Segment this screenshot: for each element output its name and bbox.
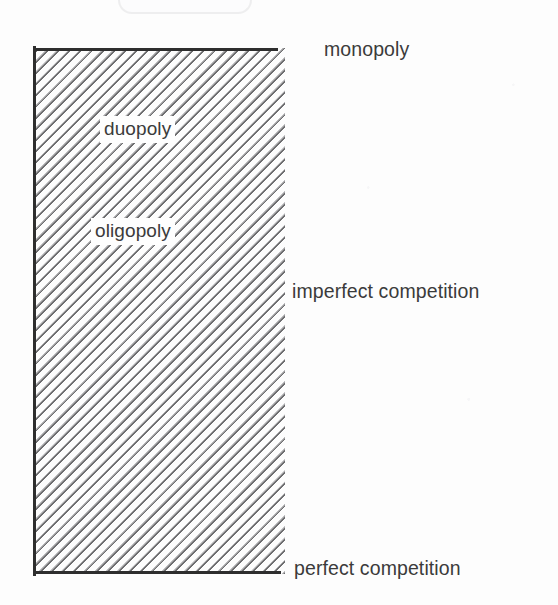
label-oligopoly: oligopoly	[91, 218, 175, 245]
scan-artifact	[118, 0, 252, 14]
bar-bottom-border	[33, 571, 281, 574]
label-imperfect-competition: imperfect competition	[292, 280, 479, 303]
diagram-canvas: duopoly oligopoly monopoly imperfect com…	[0, 0, 558, 605]
bar-left-border	[33, 46, 36, 576]
label-duopoly: duopoly	[100, 116, 175, 143]
label-perfect-competition: perfect competition	[294, 557, 461, 580]
label-monopoly: monopoly	[324, 38, 409, 61]
bar-top-border	[33, 48, 278, 51]
